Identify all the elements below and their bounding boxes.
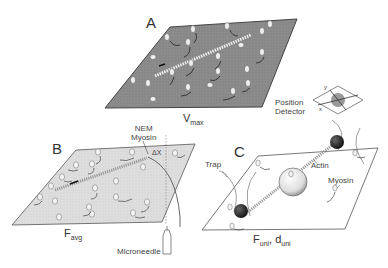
delta-x-label: ΔX xyxy=(152,148,161,157)
actin-label: Actin xyxy=(311,161,329,170)
y-axis-label: y xyxy=(324,83,327,92)
panel-b-label: B xyxy=(52,140,62,157)
vmax-label: Vmax xyxy=(183,112,204,126)
panel-a-surface xyxy=(105,19,297,108)
favg-label: Favg xyxy=(64,227,82,241)
diagram-canvas xyxy=(0,0,388,268)
panel-c-label: C xyxy=(234,143,245,160)
nem-myosin-label: NEMMyosin xyxy=(131,124,156,142)
microneedle-label: Microneedle xyxy=(117,247,161,256)
trap-label: Trap xyxy=(205,160,221,169)
panel-a-label: A xyxy=(146,14,156,31)
position-detector-label: PositionDetector xyxy=(275,98,305,116)
x-axis-label: x xyxy=(319,105,322,114)
myosin-label: Myosin xyxy=(328,176,353,185)
panel-b-surface xyxy=(12,135,195,254)
funi-duni-label: Funi, duni xyxy=(253,233,291,247)
